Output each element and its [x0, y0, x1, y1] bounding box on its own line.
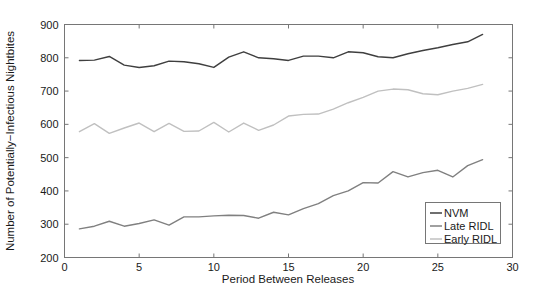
y-tick-label: 200	[40, 252, 58, 264]
y-tick-label: 600	[40, 118, 58, 130]
series-line-late-ridl	[79, 160, 482, 229]
x-tick-label: 15	[282, 261, 294, 273]
y-tick-label: 800	[40, 52, 58, 64]
y-tick-label: 300	[40, 218, 58, 230]
x-tick-label: 30	[506, 261, 518, 273]
legend-label-late-ridl: Late RIDL	[444, 220, 494, 232]
legend-label-early-ridl: Early RIDL	[444, 233, 497, 245]
x-tick-label: 25	[432, 261, 444, 273]
line-chart: 051015202530 200300400500600700800900 Pe…	[0, 0, 539, 289]
x-tick-label: 20	[357, 261, 369, 273]
data-series-group	[79, 34, 482, 228]
y-tick-label: 500	[40, 152, 58, 164]
x-axis-tick-labels: 051015202530	[61, 261, 518, 273]
y-axis-title: Number of Potentially−Infectious Nightbi…	[4, 31, 16, 251]
chart-legend: NVMLate RIDLEarly RIDL	[426, 203, 501, 246]
legend-label-nvm: NVM	[444, 207, 468, 219]
y-tick-label: 400	[40, 185, 58, 197]
y-axis-tick-labels: 200300400500600700800900	[40, 19, 58, 264]
series-line-early-ridl	[79, 84, 482, 133]
chart-figure: 051015202530 200300400500600700800900 Pe…	[0, 0, 539, 289]
y-tick-label: 700	[40, 85, 58, 97]
x-tick-label: 0	[61, 261, 67, 273]
x-tick-label: 5	[136, 261, 142, 273]
x-axis-title: Period Between Releases	[222, 273, 355, 285]
series-line-nvm	[79, 34, 482, 67]
x-tick-label: 10	[208, 261, 220, 273]
y-tick-label: 900	[40, 19, 58, 31]
